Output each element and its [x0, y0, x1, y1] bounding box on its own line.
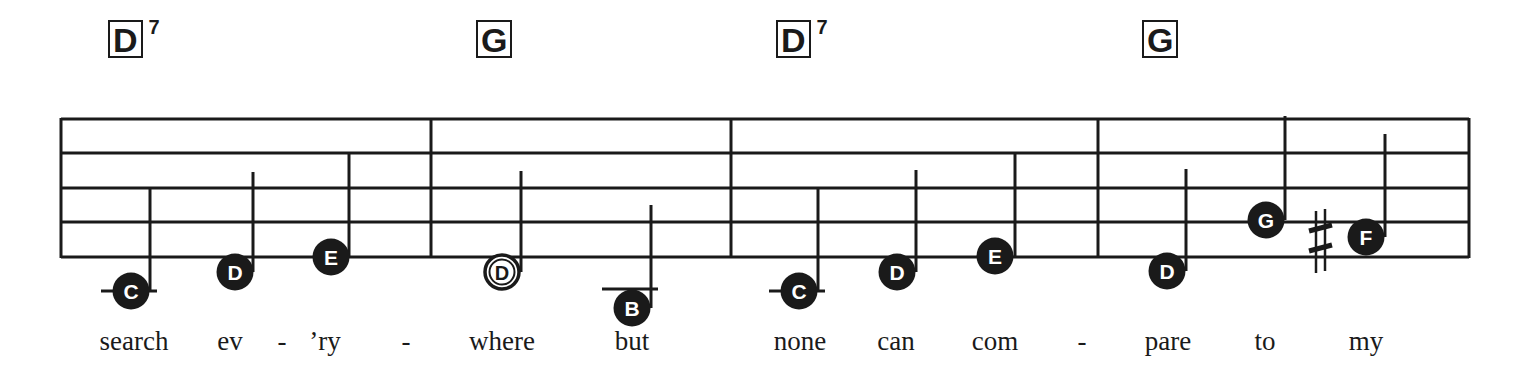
lyric-hyphen: - — [1078, 326, 1087, 357]
note-letter: D — [889, 261, 904, 284]
lyric-hyphen: - — [278, 326, 287, 357]
chord-root: G — [1142, 20, 1178, 58]
chord-symbol: G — [1142, 20, 1178, 60]
lyric-syllable: pare — [1145, 326, 1191, 357]
note-letter: C — [123, 280, 138, 303]
note-letter: G — [1258, 209, 1274, 232]
note-letter: D — [495, 262, 509, 284]
lyric-syllable: my — [1349, 326, 1384, 357]
note-letter: D — [1159, 260, 1174, 283]
sharp-icon — [1309, 245, 1332, 251]
lyric-syllable: search — [100, 326, 169, 357]
lyric-syllable: com — [972, 326, 1019, 357]
chord-extension: 7 — [817, 16, 828, 39]
chord-root: D — [108, 20, 143, 58]
sharp-icon — [1309, 225, 1332, 231]
lyric-syllable: ev — [217, 326, 242, 357]
lyric-syllable: to — [1254, 326, 1275, 357]
chord-symbol: D7 — [776, 20, 828, 60]
lyric-syllable: ’ry — [309, 326, 340, 357]
note-letter: C — [791, 280, 806, 303]
chord-symbol: D7 — [108, 20, 160, 60]
lyric-syllable: none — [774, 326, 826, 357]
note-letter: D — [227, 261, 242, 284]
lyric-syllable: can — [877, 326, 914, 357]
chord-symbol: G — [476, 20, 512, 60]
chord-extension: 7 — [149, 16, 160, 39]
chord-root: D — [776, 20, 811, 58]
chord-root: G — [476, 20, 512, 58]
lyric-syllable: where — [469, 326, 535, 357]
lyric-syllable: but — [615, 326, 650, 357]
note-letter: F — [1360, 226, 1373, 249]
note-letter: E — [324, 246, 338, 269]
note-letter: B — [624, 297, 639, 320]
note-letter: E — [988, 245, 1002, 268]
lyric-hyphen: - — [402, 326, 411, 357]
